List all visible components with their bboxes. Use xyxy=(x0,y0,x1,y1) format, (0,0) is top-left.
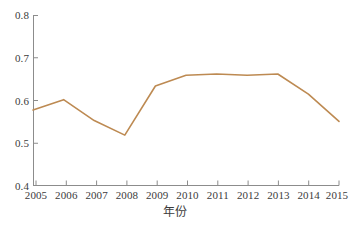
figure-caption xyxy=(0,224,350,232)
data-series-layer xyxy=(33,15,339,186)
x-axis-tick-labels: 2005 2006 2007 2008 2009 2010 2011 2012 … xyxy=(33,189,339,205)
plot-area xyxy=(33,15,339,186)
x-axis-title: 年份 xyxy=(0,205,350,219)
line-chart-figure: 0.8 0.7 0.6 0.5 0.4 xyxy=(0,0,350,232)
y-tick-label-0.6: 0.6 xyxy=(1,96,29,107)
y-axis-tick-labels: 0.8 0.7 0.6 0.5 0.4 xyxy=(0,15,29,186)
y-tick-label-0.5: 0.5 xyxy=(1,138,29,149)
x-tick-label-2015: 2015 xyxy=(317,189,350,202)
data-line-series-1 xyxy=(33,74,339,135)
y-tick-label-0.7: 0.7 xyxy=(1,53,29,64)
y-tick-label-0.8: 0.8 xyxy=(1,10,29,21)
